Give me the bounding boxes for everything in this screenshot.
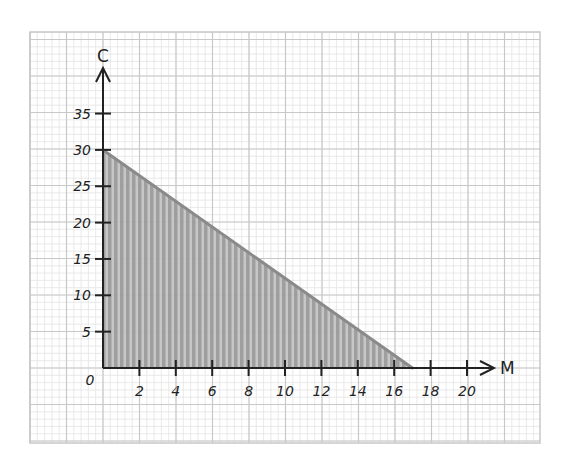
x-tick-label: 8 (244, 383, 253, 399)
x-tick-label: 18 (422, 383, 440, 399)
y-tick-label: 35 (73, 106, 91, 122)
y-tick-label: 15 (73, 251, 91, 267)
x-tick-label: 14 (349, 383, 367, 399)
y-tick-label: 30 (73, 142, 91, 158)
x-tick-label: 20 (458, 383, 476, 399)
x-tick-label: 12 (312, 383, 330, 399)
x-tick-label: 2 (135, 383, 144, 399)
origin-label: 0 (86, 372, 95, 388)
x-axis-label: M (500, 358, 515, 378)
x-tick-label: 6 (208, 383, 217, 399)
y-tick-label: 25 (73, 178, 91, 194)
x-tick-label: 4 (171, 383, 180, 399)
y-tick-label: 10 (73, 287, 91, 303)
x-tick-label: 10 (276, 383, 294, 399)
y-tick-label: 20 (73, 215, 91, 231)
chart: 246810121416182051015202530350CM (0, 0, 561, 463)
x-tick-label: 16 (385, 383, 403, 399)
y-axis-label: C (97, 46, 109, 66)
y-tick-label: 5 (82, 324, 91, 340)
